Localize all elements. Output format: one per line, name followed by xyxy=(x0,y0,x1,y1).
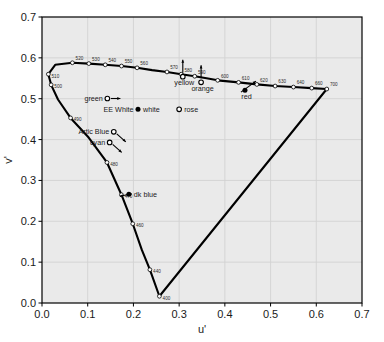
svg-text:510: 510 xyxy=(52,74,60,79)
uv-chromaticity-chart: 4004404604704804905005105205305405505605… xyxy=(0,0,384,342)
svg-text:640: 640 xyxy=(297,80,305,85)
svg-text:red: red xyxy=(241,92,251,101)
svg-text:white: white xyxy=(142,105,160,114)
chromaticity-diagram-figure: 4004404604704804905005105205305405505605… xyxy=(0,0,384,342)
plot-area-background xyxy=(42,17,362,303)
svg-text:orange: orange xyxy=(191,84,213,93)
svg-text:Artic Blue: Artic Blue xyxy=(79,127,110,136)
svg-text:480: 480 xyxy=(110,162,118,167)
svg-text:660: 660 xyxy=(315,81,323,86)
svg-text:610: 610 xyxy=(242,76,250,81)
svg-text:0.7: 0.7 xyxy=(354,308,369,320)
svg-text:560: 560 xyxy=(140,61,148,66)
svg-text:0.5: 0.5 xyxy=(21,93,36,105)
svg-text:630: 630 xyxy=(278,79,286,84)
svg-text:460: 460 xyxy=(136,223,144,228)
svg-text:0.7: 0.7 xyxy=(21,11,36,23)
y-axis-title: v' xyxy=(2,156,14,164)
svg-text:0.2: 0.2 xyxy=(21,215,36,227)
svg-text:dk blue: dk blue xyxy=(134,190,157,199)
svg-text:0.0: 0.0 xyxy=(34,308,49,320)
svg-text:620: 620 xyxy=(260,78,268,83)
svg-text:0.4: 0.4 xyxy=(217,308,232,320)
svg-text:700: 700 xyxy=(330,82,338,87)
svg-text:cyan: cyan xyxy=(90,138,105,147)
svg-text:EE White: EE White xyxy=(104,105,134,114)
svg-text:0.1: 0.1 xyxy=(21,256,36,268)
svg-text:0.6: 0.6 xyxy=(309,308,324,320)
svg-text:580: 580 xyxy=(184,68,192,73)
svg-text:490: 490 xyxy=(74,117,82,122)
svg-text:540: 540 xyxy=(108,58,116,63)
svg-text:600: 600 xyxy=(221,74,229,79)
svg-text:0.0: 0.0 xyxy=(21,297,36,309)
svg-text:590: 590 xyxy=(198,70,206,75)
svg-text:550: 550 xyxy=(125,59,133,64)
svg-text:0.5: 0.5 xyxy=(263,308,278,320)
svg-text:0.4: 0.4 xyxy=(21,134,36,146)
svg-text:440: 440 xyxy=(153,269,161,274)
svg-text:0.3: 0.3 xyxy=(21,174,36,186)
svg-text:0.1: 0.1 xyxy=(80,308,95,320)
svg-text:400: 400 xyxy=(163,296,171,301)
svg-text:0.6: 0.6 xyxy=(21,52,36,64)
svg-text:570: 570 xyxy=(170,65,178,70)
svg-text:rose: rose xyxy=(184,105,198,114)
x-axis-title: u' xyxy=(198,323,206,335)
svg-text:530: 530 xyxy=(92,57,100,62)
svg-text:500: 500 xyxy=(54,84,62,89)
svg-text:520: 520 xyxy=(76,56,84,61)
svg-text:0.3: 0.3 xyxy=(171,308,186,320)
svg-text:0.2: 0.2 xyxy=(126,308,141,320)
svg-text:green: green xyxy=(84,94,102,103)
